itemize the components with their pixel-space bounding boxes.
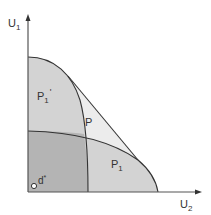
utility-possibility-diagram: U1 U2 P1' P P1 d* [0,0,211,215]
disagreement-point-marker [31,183,36,188]
x-axis-label: U2 [180,198,193,213]
x-axis-arrow-icon [195,190,202,195]
y-axis-arrow-icon [26,14,31,21]
region-overlap-fill [28,131,88,192]
region-p-label: P [85,116,92,128]
y-axis-label: U1 [8,17,21,32]
